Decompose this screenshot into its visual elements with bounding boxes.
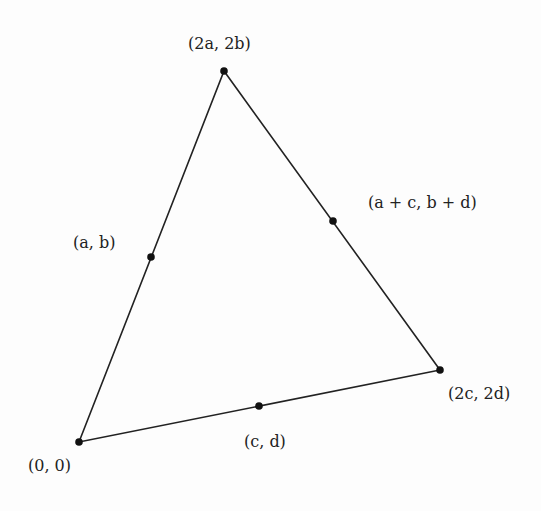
midpoint-right-point (329, 217, 337, 225)
label-midpoint-right: (a + c, b + d) (368, 193, 477, 212)
vertex-apex-point (220, 67, 228, 75)
label-apex: (2a, 2b) (188, 34, 251, 53)
label-midpoint-bottom: (c, d) (244, 432, 286, 451)
triangle-diagram: (2a, 2b) (a + c, b + d) (a, b) (2c, 2d) … (0, 0, 541, 511)
midpoint-left-point (147, 253, 155, 261)
vertex-right-point (436, 366, 444, 374)
vertex-origin-point (75, 438, 83, 446)
label-origin: (0, 0) (28, 456, 71, 475)
label-vertex-right: (2c, 2d) (448, 384, 510, 403)
triangle-outline (79, 71, 440, 442)
midpoint-bottom-point (255, 402, 263, 410)
label-midpoint-left: (a, b) (73, 233, 115, 252)
